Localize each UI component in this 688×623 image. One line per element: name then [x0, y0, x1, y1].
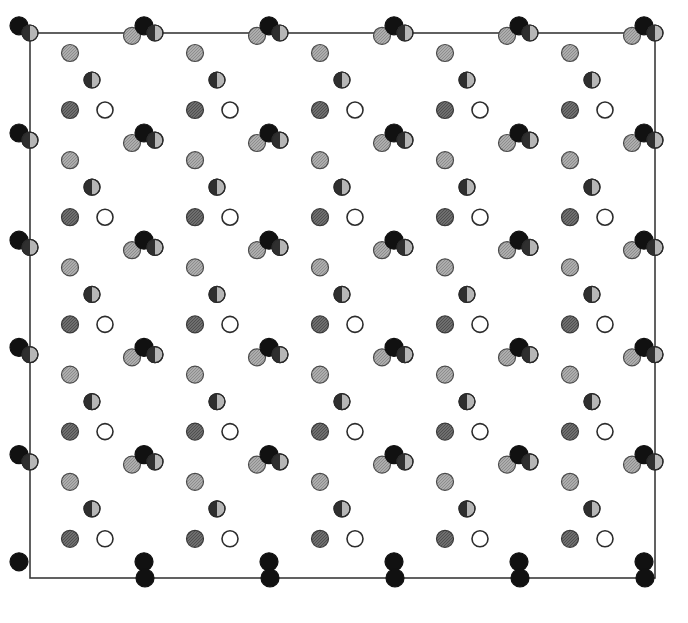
atom-split-b-2-1	[334, 179, 350, 195]
atom-black-a-1-4	[260, 553, 278, 571]
unit-cell-frame	[30, 33, 655, 578]
atom-black-a-0-4	[135, 553, 153, 571]
atom-midgray-a-2-0	[312, 102, 329, 119]
atom-black-a-3-4	[510, 553, 528, 571]
atom-split-b-3-1	[459, 179, 475, 195]
atom-split-a-2-3	[272, 347, 288, 363]
atom-open-a-0-2	[97, 316, 113, 332]
atom-lightgray-a-1-4	[187, 473, 204, 490]
atom-lightgray-a-2-0	[312, 45, 329, 62]
atom-open-a-3-0	[472, 102, 488, 118]
atom-midgray-a-1-0	[187, 102, 204, 119]
atom-split-b-1-1	[209, 179, 225, 195]
atom-lightgray-a-3-3	[437, 366, 454, 383]
atom-lightgray-a-4-2	[562, 259, 579, 276]
atom-split-a-0-4	[22, 454, 38, 470]
atom-split-a-1-1	[147, 132, 163, 148]
atom-lightgray-a-2-2	[312, 259, 329, 276]
atom-lightgray-a-3-2	[437, 259, 454, 276]
atom-split-a-5-3	[647, 347, 663, 363]
atom-lightgray-a-4-3	[562, 366, 579, 383]
atom-open-a-3-1	[472, 209, 488, 225]
atom-split-b-1-2	[209, 286, 225, 302]
atom-open-a-2-1	[347, 209, 363, 225]
atom-lightgray-a-2-4	[312, 473, 329, 490]
atom-open-a-2-4	[347, 531, 363, 547]
atom-open-a-4-4	[597, 531, 613, 547]
atom-split-b-0-1	[84, 179, 100, 195]
atom-split-a-5-4	[647, 454, 663, 470]
atom-split-b-3-4	[459, 501, 475, 517]
atom-split-b-3-3	[459, 394, 475, 410]
atom-split-a-1-4	[147, 454, 163, 470]
atom-lightgray-a-0-2	[62, 259, 79, 276]
atom-open-a-1-4	[222, 531, 238, 547]
atom-midgray-a-2-4	[312, 530, 329, 547]
atom-lightgray-a-4-1	[562, 152, 579, 169]
atom-split-b-1-3	[209, 394, 225, 410]
atom-split-b-2-4	[334, 501, 350, 517]
atom-midgray-a-0-3	[62, 423, 79, 440]
atom-split-b-3-0	[459, 72, 475, 88]
atom-midgray-a-4-3	[562, 423, 579, 440]
atom-lightgray-a-3-4	[437, 473, 454, 490]
atom-split-b-1-4	[209, 501, 225, 517]
atom-split-b-3-2	[459, 286, 475, 302]
atom-open-a-3-2	[472, 316, 488, 332]
atom-lightgray-a-4-0	[562, 45, 579, 62]
atom-lightgray-a-2-1	[312, 152, 329, 169]
atom-split-a-3-3	[397, 347, 413, 363]
atom-midgray-a-1-4	[187, 530, 204, 547]
atom-split-a-2-4	[272, 454, 288, 470]
atom-black-a-4-4	[635, 553, 653, 571]
atom-midgray-a-1-1	[187, 209, 204, 226]
atom-split-a-1-2	[147, 239, 163, 255]
atom-split-a-0-0	[22, 25, 38, 41]
atom-open-a-2-3	[347, 424, 363, 440]
atom-lightgray-a-4-4	[562, 473, 579, 490]
unit-cell-outline	[30, 33, 655, 578]
atom-midgray-a-2-1	[312, 209, 329, 226]
atom-split-a-2-2	[272, 239, 288, 255]
atom-lightgray-a-2-3	[312, 366, 329, 383]
atom-lightgray-a-0-4	[62, 473, 79, 490]
atom-split-b-4-2	[584, 286, 600, 302]
atom-open-a-1-0	[222, 102, 238, 118]
atom-open-a-3-3	[472, 424, 488, 440]
bottom-border-atom-1	[261, 569, 279, 587]
atom-midgray-a-0-0	[62, 102, 79, 119]
atom-midgray-a-0-4	[62, 530, 79, 547]
atom-split-b-1-0	[209, 72, 225, 88]
atom-midgray-a-4-0	[562, 102, 579, 119]
atom-open-a-4-2	[597, 316, 613, 332]
bottom-border-atom-0	[136, 569, 154, 587]
atom-midgray-a-4-4	[562, 530, 579, 547]
atom-midgray-a-3-4	[437, 530, 454, 547]
atom-split-b-4-1	[584, 179, 600, 195]
atom-open-a-0-0	[97, 102, 113, 118]
atom-split-a-3-2	[397, 239, 413, 255]
atom-midgray-a-1-2	[187, 316, 204, 333]
atom-split-b-2-3	[334, 394, 350, 410]
atom-lightgray-a-3-1	[437, 152, 454, 169]
atom-split-b-0-4	[84, 501, 100, 517]
atom-split-a-4-2	[522, 239, 538, 255]
atom-midgray-a-0-2	[62, 316, 79, 333]
atom-split-b-4-0	[584, 72, 600, 88]
bottom-border-atom-4	[636, 569, 654, 587]
atom-lightgray-a-0-1	[62, 152, 79, 169]
crystal-structure-figure	[0, 0, 688, 623]
atom-split-a-3-1	[397, 132, 413, 148]
atom-split-a-1-0	[147, 25, 163, 41]
bottom-border-atom-3	[511, 569, 529, 587]
atom-lightgray-a-3-0	[437, 45, 454, 62]
atom-black-a--1-4	[10, 553, 28, 571]
lattice-canvas	[0, 0, 688, 623]
atom-lightgray-a-1-2	[187, 259, 204, 276]
atom-open-a-1-1	[222, 209, 238, 225]
bottom-border-atom-2	[386, 569, 404, 587]
atom-open-a-0-1	[97, 209, 113, 225]
atom-open-a-2-2	[347, 316, 363, 332]
atom-split-a-2-0	[272, 25, 288, 41]
atom-split-b-0-2	[84, 286, 100, 302]
